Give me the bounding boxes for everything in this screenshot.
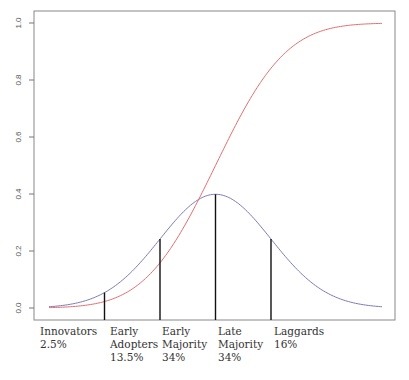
category-labels: Innovators2.5%EarlyAdopters13.5%EarlyMaj… bbox=[40, 325, 324, 363]
category-label-line: 16% bbox=[274, 338, 297, 350]
adoption-curve-chart: 0.00.20.40.60.81.0 Innovators2.5%EarlyAd… bbox=[0, 0, 409, 380]
plot-frame bbox=[34, 11, 395, 320]
category-label-line: Majority bbox=[162, 338, 207, 350]
category-label-line: Laggards bbox=[274, 325, 324, 337]
category-label: EarlyAdopters13.5% bbox=[109, 325, 158, 363]
y-tick-label: 0.6 bbox=[14, 131, 23, 143]
category-label: Laggards16% bbox=[274, 325, 324, 350]
category-label-line: Early bbox=[110, 325, 138, 337]
category-label: LateMajority34% bbox=[218, 325, 263, 363]
category-label-line: Early bbox=[162, 325, 190, 337]
category-label-line: Innovators bbox=[40, 325, 97, 337]
y-axis: 0.00.20.40.60.81.0 bbox=[14, 17, 34, 314]
category-label-line: 34% bbox=[218, 351, 241, 363]
category-label: EarlyMajority34% bbox=[162, 325, 207, 363]
y-tick-label: 1.0 bbox=[14, 17, 23, 29]
y-tick-label: 0.4 bbox=[14, 188, 23, 200]
category-label-line: Adopters bbox=[109, 338, 158, 350]
category-label-line: 2.5% bbox=[40, 338, 67, 350]
y-tick-label: 0.2 bbox=[14, 245, 23, 257]
y-tick-label: 0.0 bbox=[14, 302, 23, 314]
category-label-line: 13.5% bbox=[110, 351, 143, 363]
category-label-line: Majority bbox=[218, 338, 263, 350]
category-label-line: Late bbox=[218, 325, 242, 337]
category-dividers bbox=[105, 194, 272, 320]
category-label-line: 34% bbox=[162, 351, 185, 363]
y-tick-label: 0.8 bbox=[14, 74, 23, 86]
category-label: Innovators2.5% bbox=[40, 325, 97, 350]
